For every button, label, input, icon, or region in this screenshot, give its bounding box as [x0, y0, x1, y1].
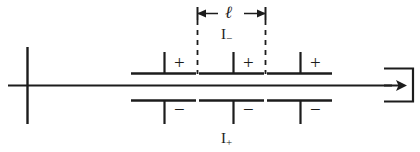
- length-label: ℓ: [225, 4, 232, 21]
- upper-charge-sign-2: +: [243, 53, 254, 72]
- output-meter-box: [384, 69, 413, 102]
- positive-current-label: I+: [221, 131, 232, 148]
- figure-canvas: [0, 0, 420, 152]
- lower-charge-sign-3: −: [310, 100, 321, 119]
- negative-current-label: I−: [221, 27, 232, 44]
- lower-charge-sign-2: −: [243, 100, 254, 119]
- upper-charge-sign-1: +: [174, 53, 185, 72]
- lower-charge-sign-1: −: [174, 100, 185, 119]
- ionization-chamber-figure: ℓ I− I+ + + + − − −: [0, 0, 420, 152]
- negative-current-subscript: −: [226, 32, 232, 44]
- positive-current-subscript: +: [226, 136, 232, 148]
- upper-electrode-group: [131, 52, 332, 74]
- lower-electrode-group: [131, 101, 332, 125]
- upper-charge-sign-3: +: [310, 53, 321, 72]
